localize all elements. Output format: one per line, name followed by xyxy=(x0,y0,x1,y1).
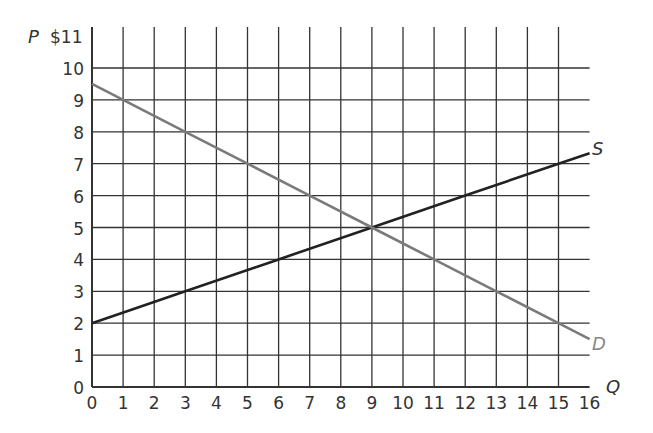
x-tick-label: 11 xyxy=(423,393,445,413)
y-tick-label: 1 xyxy=(73,346,84,366)
x-tick-label: 13 xyxy=(485,393,507,413)
x-tick-label: 3 xyxy=(180,393,191,413)
x-tick-label: 12 xyxy=(454,393,476,413)
x-tick-label: 9 xyxy=(366,393,377,413)
x-tick-label: 10 xyxy=(392,393,414,413)
y-tick-label: 10 xyxy=(62,59,84,79)
supply-curve-label: S xyxy=(592,138,603,159)
y-tick-label: 6 xyxy=(73,187,84,207)
price-axis-label: P xyxy=(28,26,39,47)
supply-demand-chart: 012345678910111213141516012345678910 P $… xyxy=(0,0,653,433)
x-tick-label: 14 xyxy=(517,393,539,413)
y-tick-label: 5 xyxy=(73,219,84,239)
y-tick-label: 0 xyxy=(73,378,84,398)
y-tick-label: 8 xyxy=(73,123,84,143)
x-tick-label: 15 xyxy=(548,393,570,413)
x-tick-label: 0 xyxy=(87,393,98,413)
y-tick-label: 3 xyxy=(73,282,84,302)
grid xyxy=(92,27,590,387)
y-tick-label: 7 xyxy=(73,155,84,175)
x-tick-label: 2 xyxy=(149,393,160,413)
x-tick-label: 7 xyxy=(304,393,315,413)
x-tick-label: 1 xyxy=(118,393,129,413)
x-tick-label: 16 xyxy=(579,393,601,413)
quantity-axis-label: Q xyxy=(606,376,620,397)
x-tick-label: 4 xyxy=(211,393,222,413)
x-tick-label: 8 xyxy=(335,393,346,413)
demand-curve-label: D xyxy=(592,333,606,354)
tick-labels: 012345678910111213141516012345678910 xyxy=(62,59,600,413)
y-tick-label: 9 xyxy=(73,91,84,111)
x-tick-label: 5 xyxy=(242,393,253,413)
top-price-label: $11 xyxy=(50,27,82,47)
y-tick-label: 4 xyxy=(73,250,84,270)
y-tick-label: 2 xyxy=(73,314,84,334)
x-tick-label: 6 xyxy=(273,393,284,413)
